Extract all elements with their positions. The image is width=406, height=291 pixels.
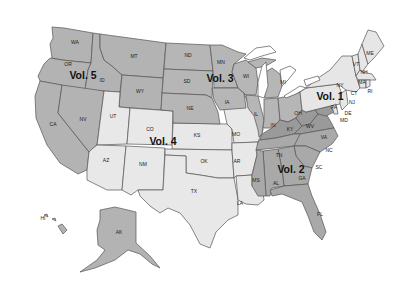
label-ms: MS (252, 177, 260, 183)
label-ks: KS (194, 132, 201, 138)
label-ga: GA (298, 175, 306, 181)
state-ri[interactable] (366, 80, 370, 88)
label-al: AL (273, 180, 279, 186)
label-nm: NM (139, 161, 147, 167)
label-tn: TN (276, 152, 283, 158)
label-il: IL (254, 111, 258, 117)
label-sc: SC (316, 164, 323, 170)
label-pa: PA (331, 104, 338, 110)
label-ny: NY (337, 82, 345, 88)
label-az: AZ (103, 157, 109, 163)
label-md: MD (340, 117, 348, 123)
label-nv: NV (80, 116, 88, 122)
label-hi: HI (41, 215, 46, 221)
label-va: VA (321, 134, 328, 140)
label-fl: FL (317, 211, 323, 217)
label-ut: UT (110, 113, 117, 119)
label-ri: RI (368, 88, 373, 94)
state-ks[interactable] (172, 123, 232, 150)
label-ma: MA (358, 79, 366, 85)
state-nm[interactable] (122, 146, 165, 195)
label-ar: AR (234, 158, 241, 164)
label-la: LA (237, 200, 244, 206)
label-ca: CA (50, 121, 58, 127)
label-co: CO (146, 126, 154, 132)
state-az[interactable] (87, 145, 126, 190)
label-id: ID (100, 77, 105, 83)
label-mo: MO (232, 131, 240, 137)
us-volume-map: WA OR ID MT WY CA NV UT CO AZ NM ND SD N… (0, 0, 406, 291)
label-mt: MT (130, 53, 137, 59)
label-oh: OH (294, 110, 302, 116)
label-ia: IA (225, 99, 230, 105)
state-hi[interactable] (44, 214, 67, 234)
label-nd: ND (184, 52, 192, 58)
label-tx: TX (191, 188, 198, 194)
label-in: IN (271, 122, 276, 128)
state-ak[interactable] (80, 207, 160, 272)
label-wy: WY (136, 88, 145, 94)
label-vol-1: Vol. 1 (316, 90, 343, 102)
label-vol-5: Vol. 5 (69, 69, 96, 81)
state-wa[interactable] (50, 27, 93, 63)
label-mn: MN (217, 59, 225, 65)
label-ok: OK (200, 158, 208, 164)
label-wi: WI (243, 73, 249, 79)
label-wv: WV (306, 123, 315, 129)
label-nc: NC (325, 147, 333, 153)
label-nj: NJ (349, 99, 356, 105)
label-de: DE (345, 110, 353, 116)
label-ne: NE (187, 105, 195, 111)
label-ak: AK (116, 229, 123, 235)
label-ct: CT (351, 90, 358, 96)
label-vol-3: Vol. 3 (206, 72, 233, 84)
label-wa: WA (71, 39, 80, 45)
label-mi: MI (280, 79, 286, 85)
label-me: ME (366, 50, 374, 56)
label-ky: KY (287, 126, 294, 132)
label-vt: VT (353, 61, 359, 67)
label-or: OR (64, 61, 72, 67)
label-vol-2: Vol. 2 (277, 163, 304, 175)
label-vol-4: Vol. 4 (149, 135, 176, 147)
label-nh: NH (360, 69, 368, 75)
label-sd: SD (184, 78, 191, 84)
